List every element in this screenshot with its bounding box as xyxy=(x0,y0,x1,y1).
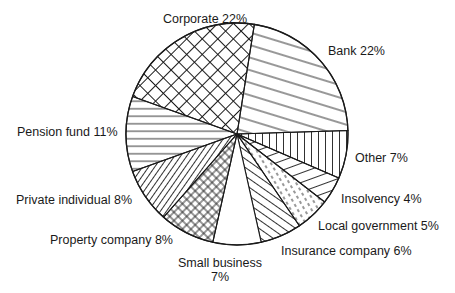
label-small-business-value: 7% xyxy=(168,270,272,284)
label-other: Other 7% xyxy=(355,151,408,165)
pie-slice-bank xyxy=(237,24,348,134)
label-pension-fund: Pension fund 11% xyxy=(17,125,118,139)
label-property-company: Property company 8% xyxy=(50,233,173,247)
label-private-individual: Private individual 8% xyxy=(16,193,132,207)
pie-slices xyxy=(126,23,348,245)
label-insurance-company: Insurance company 6% xyxy=(281,244,412,258)
label-corporate: Corporate 22% xyxy=(163,12,247,26)
label-local-government: Local government 5% xyxy=(318,219,439,233)
label-bank: Bank 22% xyxy=(328,44,385,58)
label-small-business-name: Small business xyxy=(168,256,272,270)
label-insolvency: Insolvency 4% xyxy=(341,192,422,206)
label-small-business: Small business 7% xyxy=(168,256,272,284)
